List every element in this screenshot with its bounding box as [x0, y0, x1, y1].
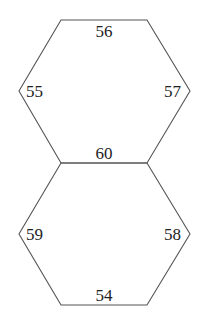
- label-upper-left: 55: [26, 82, 43, 101]
- label-lower-right: 58: [164, 225, 181, 244]
- hexagon-diagram: 56 55 57 60 59 58 54: [0, 0, 205, 318]
- label-upper-top: 56: [96, 22, 113, 41]
- label-lower-left: 59: [26, 225, 43, 244]
- label-lower-bottom: 54: [96, 286, 114, 305]
- label-shared-edge: 60: [96, 144, 113, 163]
- label-upper-right: 57: [164, 82, 182, 101]
